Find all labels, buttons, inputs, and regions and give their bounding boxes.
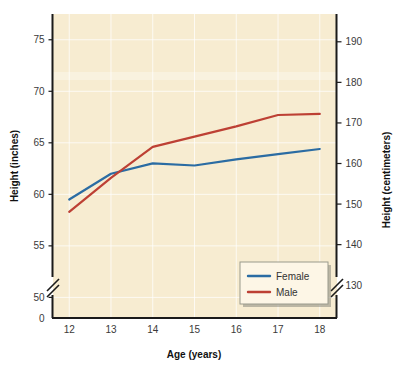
right-axis-break-icon [331,277,345,297]
right-axis-tick-label: 180 [346,77,363,88]
right-axis-tick-label: 140 [346,239,363,250]
left-axis-tick-label: 50 [33,292,45,303]
x-axis-title: Age (years) [167,349,221,360]
scan-artifact-band [0,72,403,80]
left-axis-title: Height (inches) [9,130,20,202]
left-axis-break-icon [46,277,59,297]
right-axis-tick-label: 150 [346,199,363,210]
right-axis-tick-label: 170 [346,117,363,128]
height-vs-age-line-chart: 5055606570750 130140150160170180190 1213… [0,0,403,371]
x-axis-tick-label: 12 [64,324,76,335]
right-axis-tick-label: 130 [346,280,363,291]
x-axis-tick-label: 17 [272,324,284,335]
chart-canvas: 5055606570750 130140150160170180190 1213… [0,0,403,371]
left-axis-tick-label: 75 [33,34,45,45]
left-axis-tick-label: 55 [33,240,45,251]
x-axis-tick-label: 16 [231,324,243,335]
x-axis-tick-label: 14 [147,324,159,335]
legend-background [240,262,328,304]
chart-legend[interactable]: FemaleMale [240,262,331,307]
left-axis-tick-label: 60 [33,189,45,200]
legend-label-female[interactable]: Female [276,271,310,282]
legend-label-male[interactable]: Male [276,287,298,298]
left-axis-tick-label: 65 [33,137,45,148]
x-axis-tick-label: 13 [105,324,117,335]
x-axis-tick-label: 18 [314,324,326,335]
right-axis-tick-label: 160 [346,158,363,169]
right-axis-tick-label: 190 [346,36,363,47]
x-axis-tick-label: 15 [189,324,201,335]
left-axis-tick-label: 70 [33,86,45,97]
left-axis-zero-label: 0 [39,313,45,324]
right-axis-title: Height (centimeters) [381,132,392,229]
